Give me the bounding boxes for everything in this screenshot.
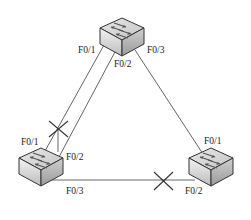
label-top-f03: F0/3 [147,46,164,56]
label-left-f01: F0/1 [21,138,38,148]
label-top-f01: F0/1 [78,46,95,56]
label-right-f02: F0/2 [185,187,202,197]
switch-top-icon [100,18,144,56]
label-top-f02: F0/2 [114,60,131,70]
switch-right-icon [189,148,233,186]
blocked-mark-left-link [49,121,68,137]
blocked-mark-bottom-link [154,172,173,190]
label-left-f02: F0/2 [66,153,83,163]
link-top-f02-left-f02 [59,50,116,157]
topology-diagram [0,0,251,220]
label-left-f03: F0/3 [66,187,83,197]
link-top-f03-right-f01 [135,50,203,154]
label-right-f01: F0/1 [204,137,221,147]
link-top-f01-left-f01 [45,45,104,151]
